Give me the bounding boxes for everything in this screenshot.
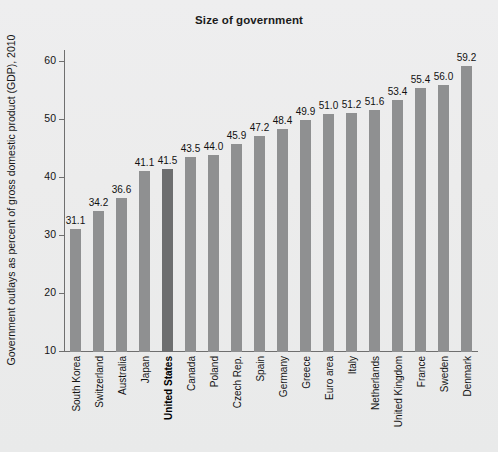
bar [70, 229, 82, 352]
bar-value-label: 31.1 [66, 215, 85, 226]
x-tick-label-slot: Switzerland [87, 356, 110, 450]
bar [277, 129, 289, 352]
bar [208, 155, 220, 352]
bar [300, 120, 312, 352]
x-tick-label: Germany [277, 356, 288, 397]
bar-value-label: 47.2 [250, 122, 269, 133]
bar-value-label: 48.4 [273, 115, 292, 126]
bar-group: 56.0 [438, 50, 450, 352]
x-tick-label-slot: Italy [340, 356, 363, 450]
y-tick-label: 20 [44, 286, 56, 298]
x-tick-label-slot: France [409, 356, 432, 450]
bar-group: 51.6 [369, 50, 381, 352]
y-tick-label: 30 [44, 228, 56, 240]
bar-value-label: 51.2 [342, 99, 361, 110]
bar [162, 169, 174, 352]
x-tick-label-slot: South Korea [64, 356, 87, 450]
bar-value-label: 43.5 [181, 143, 200, 154]
x-tick-label: France [415, 356, 426, 387]
bar-group: 51.2 [346, 50, 358, 352]
bar-value-label: 53.4 [388, 86, 407, 97]
x-tick-label-slot: Japan [133, 356, 156, 450]
bar-group: 41.1 [139, 50, 151, 352]
bar-group: 55.4 [415, 50, 427, 352]
x-tick-label: Canada [185, 356, 196, 391]
bar-value-label: 41.5 [158, 155, 177, 166]
bar-group: 49.9 [300, 50, 312, 352]
x-tick-label-slot: Spain [248, 356, 271, 450]
bar [415, 88, 427, 352]
x-tick-label: Australia [116, 356, 127, 395]
bar [116, 198, 128, 352]
bar-group: 34.2 [93, 50, 105, 352]
bar-value-label: 51.0 [319, 100, 338, 111]
bar-value-label: 36.6 [112, 184, 131, 195]
x-tick-label-slot: Sweden [432, 356, 455, 450]
x-tick-label: Switzerland [93, 356, 104, 408]
plot-area: 102030405060 31.134.236.641.141.543.544.… [64, 50, 478, 352]
chart-title: Size of government [0, 14, 498, 26]
bar [185, 157, 197, 352]
bar-value-label: 51.6 [365, 96, 384, 107]
bar [438, 85, 450, 352]
bar-value-label: 59.2 [457, 52, 476, 63]
x-tick-label: Czech Rep. [231, 356, 242, 408]
bars-layer: 31.134.236.641.141.543.544.045.947.248.4… [64, 50, 478, 352]
x-tick-label-slot: Greece [294, 356, 317, 450]
bar [93, 211, 105, 352]
bar-group: 48.4 [277, 50, 289, 352]
bar [346, 113, 358, 352]
y-tick-label: 10 [44, 344, 56, 356]
bar-value-label: 41.1 [135, 157, 154, 168]
x-tick-label-slot: Denmark [455, 356, 478, 450]
x-tick-label: United Kingdom [392, 356, 403, 427]
bar [254, 136, 266, 352]
y-tick-label: 60 [44, 54, 56, 66]
y-axis-title: Government outlays as percent of gross d… [5, 35, 17, 366]
x-tick-label: Netherlands [369, 356, 380, 410]
bar [461, 66, 473, 352]
bar-group: 41.5 [162, 50, 174, 352]
bar-group: 45.9 [231, 50, 243, 352]
x-tick-label: Spain [254, 356, 265, 382]
x-tick-label-slot: Euro area [317, 356, 340, 450]
x-tick-label: Sweden [438, 356, 449, 392]
bar-group: 44.0 [208, 50, 220, 352]
bar-value-label: 49.9 [296, 106, 315, 117]
bar-value-label: 34.2 [89, 197, 108, 208]
x-tick-label-slot: Germany [271, 356, 294, 450]
bar-group: 43.5 [185, 50, 197, 352]
x-tick-label: Denmark [461, 356, 472, 397]
x-tick-label-slot: Poland [202, 356, 225, 450]
y-tick-label: 40 [44, 170, 56, 182]
bar [392, 100, 404, 352]
bar-group: 47.2 [254, 50, 266, 352]
bar-value-label: 45.9 [227, 130, 246, 141]
bar [139, 171, 151, 352]
y-axis-title-container: Government outlays as percent of gross d… [2, 45, 20, 355]
bar-group: 53.4 [392, 50, 404, 352]
x-tick-label-slot: United States [156, 356, 179, 450]
x-tick-label: Poland [208, 356, 219, 387]
bar-value-label: 44.0 [204, 141, 223, 152]
x-tick-label-slot: Netherlands [363, 356, 386, 450]
x-tick-label-slot: Canada [179, 356, 202, 450]
x-tick-label-slot: Australia [110, 356, 133, 450]
bar-group: 59.2 [461, 50, 473, 352]
bar-value-label: 55.4 [411, 74, 430, 85]
x-tick-label: Japan [139, 356, 150, 383]
x-tick-label: South Korea [70, 356, 81, 412]
x-tick-label: United States [162, 356, 173, 420]
bar [231, 144, 243, 352]
bar-value-label: 56.0 [434, 71, 453, 82]
bar-group: 31.1 [70, 50, 82, 352]
bar [323, 114, 335, 352]
bar-group: 36.6 [116, 50, 128, 352]
bar [369, 110, 381, 352]
x-tick-label-slot: United Kingdom [386, 356, 409, 450]
x-axis-labels: South KoreaSwitzerlandAustraliaJapanUnit… [64, 356, 478, 450]
chart-container: Size of government Government outlays as… [0, 0, 498, 452]
y-tick-label: 50 [44, 112, 56, 124]
x-tick-label-slot: Czech Rep. [225, 356, 248, 450]
x-tick-label: Italy [346, 356, 357, 374]
